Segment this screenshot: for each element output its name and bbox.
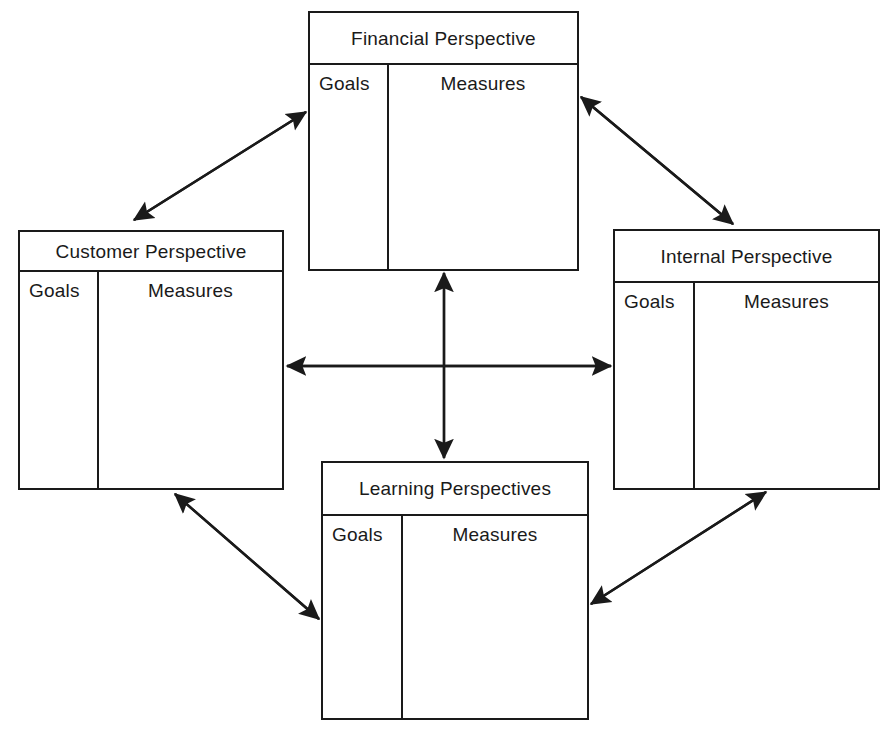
connector-internal-learning (591, 492, 766, 604)
box-header-learning: Learning Perspectives (323, 463, 587, 516)
goals-column-financial: Goals (310, 65, 389, 269)
perspective-box-financial: Financial Perspective Goals Measures (308, 11, 579, 271)
box-columns-learning: Goals Measures (323, 516, 587, 718)
measures-label-customer: Measures (148, 281, 233, 300)
box-header-customer: Customer Perspective (20, 232, 282, 272)
box-columns-financial: Goals Measures (310, 65, 577, 269)
box-columns-customer: Goals Measures (20, 272, 282, 488)
goals-label-internal: Goals (624, 292, 675, 311)
goals-column-internal: Goals (615, 283, 695, 488)
goals-label-financial: Goals (319, 74, 370, 93)
perspective-box-internal: Internal Perspective Goals Measures (613, 229, 880, 490)
measures-label-financial: Measures (440, 74, 525, 93)
measures-label-learning: Measures (452, 525, 537, 544)
perspective-box-learning: Learning Perspectives Goals Measures (321, 461, 589, 720)
box-title-learning: Learning Perspectives (359, 479, 551, 498)
perspective-box-customer: Customer Perspective Goals Measures (18, 230, 284, 490)
measures-label-internal: Measures (744, 292, 829, 311)
box-title-customer: Customer Perspective (56, 242, 247, 261)
goals-label-learning: Goals (332, 525, 383, 544)
measures-column-learning: Measures (403, 516, 587, 718)
connector-financial-internal (581, 97, 733, 224)
goals-column-customer: Goals (20, 272, 99, 488)
goals-label-customer: Goals (29, 281, 80, 300)
box-columns-internal: Goals Measures (615, 283, 878, 488)
measures-column-financial: Measures (389, 65, 577, 269)
box-header-internal: Internal Perspective (615, 231, 878, 283)
measures-column-customer: Measures (99, 272, 282, 488)
measures-column-internal: Measures (695, 283, 878, 488)
box-title-internal: Internal Perspective (661, 247, 833, 266)
connector-customer-learning (175, 494, 319, 619)
goals-column-learning: Goals (323, 516, 403, 718)
box-title-financial: Financial Perspective (351, 29, 536, 48)
balanced-scorecard-diagram: Financial Perspective Goals Measures Cus… (0, 0, 895, 736)
box-header-financial: Financial Perspective (310, 13, 577, 65)
connector-financial-customer (134, 112, 306, 220)
